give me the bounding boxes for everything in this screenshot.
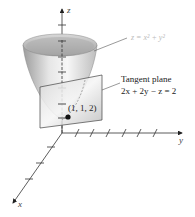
surface-equation-label: z = x² + y² — [130, 33, 165, 42]
surface-leader-line — [94, 38, 127, 51]
z-axis-label: z — [66, 5, 71, 15]
x-axis-ticks — [25, 147, 55, 179]
y-axis-label: y — [178, 135, 183, 145]
x-axis — [13, 133, 62, 203]
x-axis-label: x — [17, 199, 22, 209]
tangent-plane-title: Tangent plane — [121, 74, 172, 84]
tangent-plane-equation: 2x + 2y − z = 2 — [121, 86, 176, 96]
paraboloid-tangent-plane-figure: (1, 1, 2) y x z z = x² + y² Tangent plan… — [0, 0, 195, 217]
point-label: (1, 1, 2) — [68, 103, 97, 113]
tangent-point — [65, 114, 70, 119]
plane-leader-line — [102, 83, 120, 90]
